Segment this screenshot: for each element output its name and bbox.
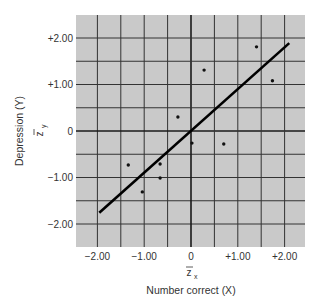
y-tick-label: 0	[67, 126, 73, 137]
svg-text:z: z	[34, 132, 45, 137]
data-point	[127, 163, 130, 166]
x-tick-label: +2.00	[272, 251, 298, 262]
data-point	[202, 68, 205, 71]
svg-text:x: x	[194, 273, 198, 280]
y-tick-labels: +2.00+1.000−1.00−2.00	[48, 33, 74, 230]
x-tick-label: −1.00	[132, 251, 158, 262]
y-tick-label: −1.00	[48, 172, 74, 183]
y-z-label: z y	[34, 124, 48, 137]
x-tick-label: 0	[188, 251, 194, 262]
y-axis-title: Depression (Y)	[13, 96, 25, 166]
data-point	[271, 79, 274, 82]
data-point	[158, 176, 161, 179]
data-point	[222, 142, 225, 145]
x-tick-label: +1.00	[225, 251, 251, 262]
data-point	[158, 162, 161, 165]
svg-text:z: z	[187, 267, 192, 278]
scatter-chart: −2.00−1.000+1.00+2.00 +2.00+1.000−1.00−2…	[0, 0, 319, 300]
svg-text:y: y	[40, 124, 48, 128]
y-tick-label: +2.00	[48, 33, 74, 44]
data-point	[190, 141, 193, 144]
x-tick-label: −2.00	[85, 251, 111, 262]
x-z-label: z x	[186, 267, 198, 280]
data-point	[141, 190, 144, 193]
data-point	[255, 45, 258, 48]
y-tick-label: +1.00	[48, 79, 74, 90]
y-tick-label: −2.00	[48, 219, 74, 230]
data-point	[176, 115, 179, 118]
x-axis-title: Number correct (X)	[146, 284, 235, 296]
x-tick-labels: −2.00−1.000+1.00+2.00	[85, 251, 298, 262]
